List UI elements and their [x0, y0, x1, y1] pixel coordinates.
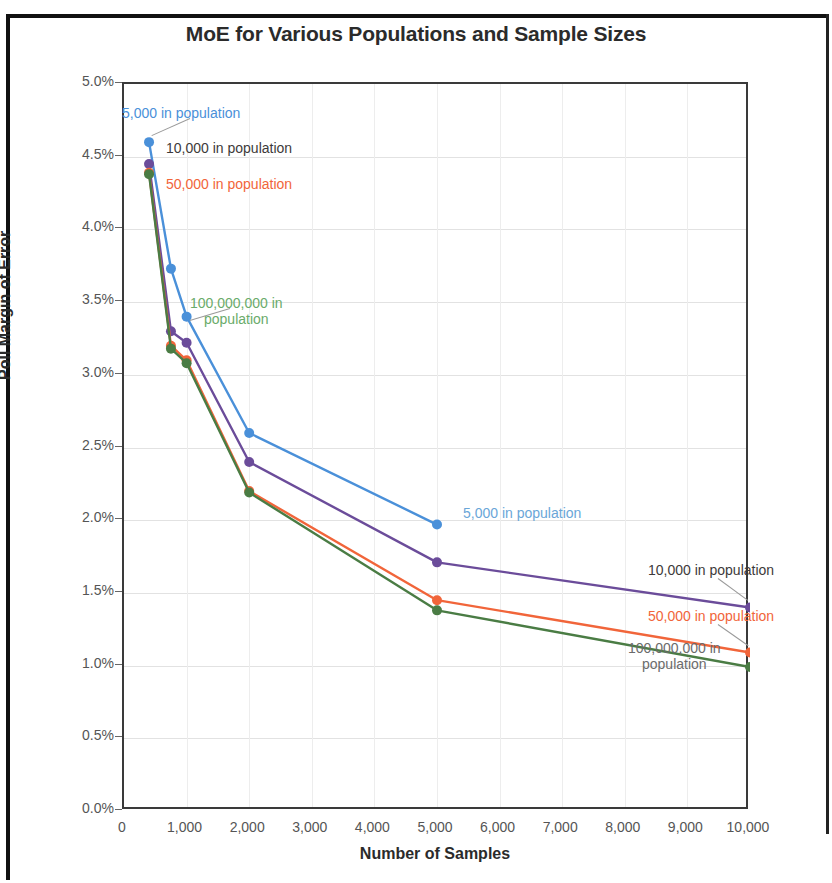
y-tick-mark	[115, 82, 122, 83]
label-left-5000: 5,000 in population	[122, 105, 240, 121]
data-point-marker	[432, 605, 442, 615]
label-right-100m-line2: population	[628, 656, 721, 672]
y-tick-label: 2.0%	[44, 509, 114, 525]
y-tick-label: 5.0%	[44, 73, 114, 89]
y-tick-label: 1.5%	[44, 582, 114, 598]
data-point-marker	[144, 159, 154, 169]
data-point-marker	[432, 595, 442, 605]
y-tick-mark	[115, 664, 122, 665]
x-axis-title: Number of Samples	[122, 845, 748, 863]
y-tick-label: 0.0%	[44, 800, 114, 816]
y-tick-mark	[115, 736, 122, 737]
data-point-marker	[166, 264, 176, 274]
label-right-100m-line1: 100,000,000 in	[628, 640, 721, 656]
label-right-50000: 50,000 in population	[648, 608, 774, 624]
series-line	[149, 142, 437, 524]
y-tick-label: 3.0%	[44, 364, 114, 380]
data-point-marker	[244, 488, 254, 498]
x-tick-label: 10,000	[708, 819, 788, 835]
y-tick-mark	[115, 155, 122, 156]
series-lines-layer	[124, 84, 750, 811]
y-tick-mark	[115, 446, 122, 447]
data-point-marker	[745, 662, 750, 672]
data-point-marker	[166, 344, 176, 354]
data-point-marker	[432, 557, 442, 567]
label-left-100m-line2: population	[190, 311, 283, 327]
y-tick-mark	[115, 809, 122, 810]
chart-figure: MoE for Various Populations and Sample S…	[0, 0, 832, 883]
y-tick-label: 3.5%	[44, 291, 114, 307]
y-tick-label: 0.5%	[44, 727, 114, 743]
y-tick-mark	[115, 591, 122, 592]
label-right-100m: 100,000,000 inpopulation	[628, 640, 721, 672]
data-point-marker	[244, 428, 254, 438]
data-point-marker	[144, 169, 154, 179]
y-tick-mark	[115, 373, 122, 374]
series-line	[149, 164, 750, 607]
y-tick-label: 2.5%	[44, 437, 114, 453]
y-tick-mark	[115, 518, 122, 519]
y-tick-mark	[115, 227, 122, 228]
series-line	[149, 174, 750, 667]
label-left-100m-line1: 100,000,000 in	[190, 295, 283, 311]
y-tick-label: 4.0%	[44, 218, 114, 234]
y-tick-label: 4.5%	[44, 146, 114, 162]
label-left-50000: 50,000 in population	[166, 176, 292, 192]
y-axis-title: Poll Margin of Error	[0, 231, 14, 380]
label-left-100m: 100,000,000 inpopulation	[190, 295, 283, 327]
label-left-10000: 10,000 in population	[166, 140, 292, 156]
y-tick-label: 1.0%	[44, 655, 114, 671]
data-point-marker	[432, 520, 442, 530]
chart-title: MoE for Various Populations and Sample S…	[0, 22, 832, 46]
data-point-marker	[244, 457, 254, 467]
y-tick-mark	[115, 300, 122, 301]
label-right-5000: 5,000 in population	[463, 505, 581, 521]
data-point-marker	[745, 648, 750, 658]
data-point-marker	[144, 137, 154, 147]
data-point-marker	[182, 358, 192, 368]
data-point-marker	[182, 338, 192, 348]
label-right-10000: 10,000 in population	[648, 562, 774, 578]
